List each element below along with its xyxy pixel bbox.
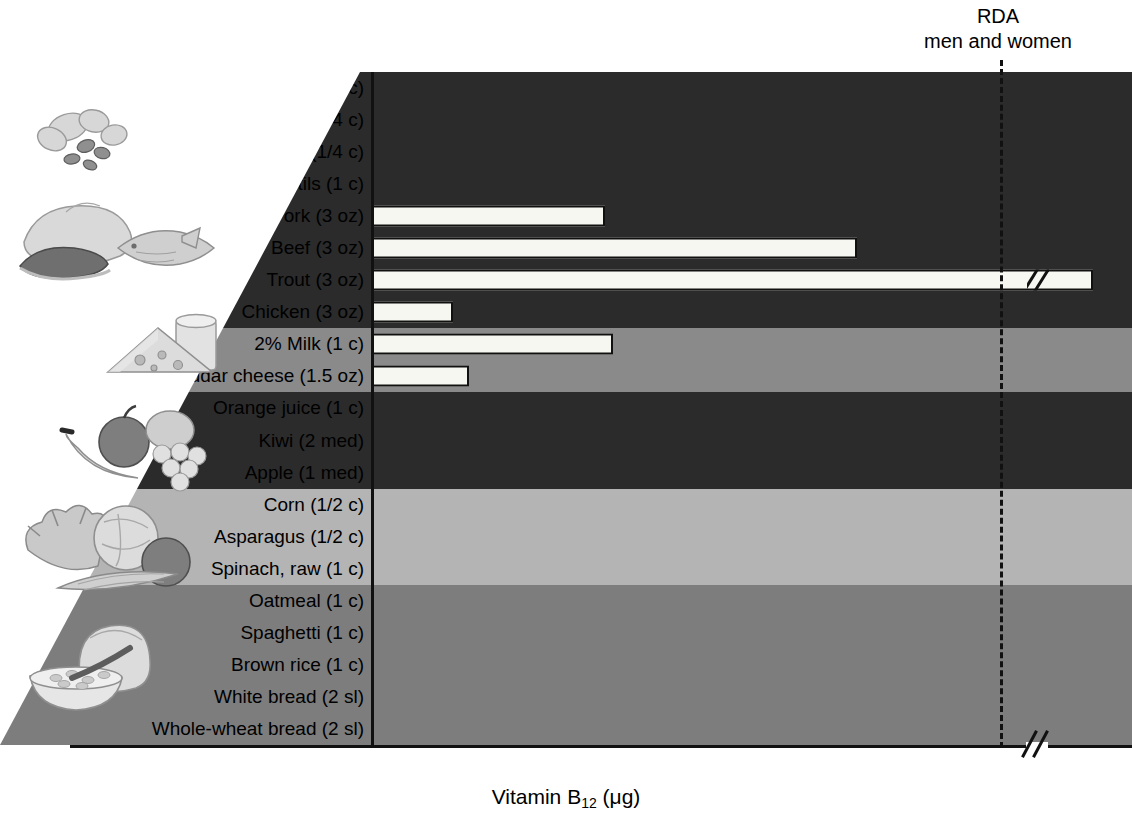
bar-row — [372, 521, 1132, 553]
category-row: Beef (3 oz) — [0, 232, 372, 264]
bar-row — [372, 72, 1132, 104]
category-label: Beef (3 oz) — [271, 237, 364, 259]
x-axis-title-subscript: 12 — [581, 795, 597, 811]
bar-cheddar-cheese — [372, 366, 469, 387]
category-label: Oatmeal (1 c) — [249, 590, 364, 612]
category-label: Kiwi (2 med) — [258, 430, 364, 452]
bar-row — [372, 425, 1132, 457]
bar-row — [372, 264, 1132, 296]
category-label: Orange juice (1 c) — [213, 397, 364, 419]
rda-annotation-line1: RDA — [878, 4, 1118, 29]
bar-row — [372, 457, 1132, 489]
rda-annotation-line2: men and women — [878, 29, 1118, 54]
category-row: Corn (1/2 c) — [0, 489, 372, 521]
category-label: Spaghetti (1 c) — [240, 622, 364, 644]
category-row: 2% Milk (1 c) — [0, 328, 372, 360]
category-label: Chicken (3 oz) — [242, 301, 365, 323]
category-label: Cheddar cheese (1.5 oz) — [155, 365, 364, 387]
category-row: Peanuts (1/4 c) — [0, 136, 372, 168]
category-row: Chicken (3 oz) — [0, 296, 372, 328]
category-row: Sunflower seeds (1/4 c) — [0, 72, 372, 104]
bar-row — [372, 681, 1132, 713]
x-axis-title-unit: (μg) — [597, 785, 641, 808]
category-label: Asparagus (1/2 c) — [214, 526, 364, 548]
bar-pork — [372, 206, 605, 227]
bar-chicken — [372, 302, 453, 323]
category-row: Pork (3 oz) — [0, 200, 372, 232]
x-axis-line — [70, 745, 1132, 748]
category-label: Sunflower seeds (1/4 c) — [164, 77, 364, 99]
axis-break-icon — [1022, 731, 1056, 757]
category-label: White bread (2 sl) — [214, 686, 364, 708]
bar-row — [372, 136, 1132, 168]
category-row: Trout (3 oz) — [0, 264, 372, 296]
category-label: 2% Milk (1 c) — [254, 333, 364, 355]
bar-trout — [372, 270, 1093, 291]
rda-reference-line — [1000, 60, 1003, 748]
category-label: Trout (3 oz) — [267, 269, 365, 291]
category-label: Spinach, raw (1 c) — [211, 558, 364, 580]
category-row: Cheddar cheese (1.5 oz) — [0, 360, 372, 392]
x-axis-title: Vitamin B12 (μg) — [0, 785, 1132, 811]
bar-row — [372, 232, 1132, 264]
bar-row — [372, 617, 1132, 649]
bar-row — [372, 489, 1132, 521]
category-label-column: Sunflower seeds (1/4 c)Walnuts (1/4 c)Pe… — [0, 72, 372, 745]
bar-break-icon — [1027, 270, 1049, 291]
category-label: Walnuts (1/4 c) — [237, 109, 364, 131]
category-label: Peanuts (1/4 c) — [235, 141, 364, 163]
category-row: Walnuts (1/4 c) — [0, 104, 372, 136]
bar-row — [372, 713, 1132, 745]
bar-row — [372, 553, 1132, 585]
bar-beef — [372, 238, 857, 259]
vitamin-b12-food-sources-chart: RDA men and women Sunflower seeds (1/4 c… — [0, 0, 1132, 822]
category-row: Lentils (1 c) — [0, 168, 372, 200]
category-label: Pork (3 oz) — [271, 205, 364, 227]
category-row: Brown rice (1 c) — [0, 649, 372, 681]
category-row: Apple (1 med) — [0, 457, 372, 489]
bar-row — [372, 360, 1132, 392]
category-label: Apple (1 med) — [245, 462, 364, 484]
bar-row — [372, 328, 1132, 360]
bar-row — [372, 392, 1132, 424]
bar-row — [372, 168, 1132, 200]
bar-row — [372, 585, 1132, 617]
category-row: Kiwi (2 med) — [0, 425, 372, 457]
category-row: Orange juice (1 c) — [0, 392, 372, 424]
category-row: Whole-wheat bread (2 sl) — [0, 713, 372, 745]
category-row: Spinach, raw (1 c) — [0, 553, 372, 585]
plot-area — [372, 72, 1132, 745]
bar-row — [372, 649, 1132, 681]
category-row: White bread (2 sl) — [0, 681, 372, 713]
category-row: Asparagus (1/2 c) — [0, 521, 372, 553]
rda-annotation: RDA men and women — [878, 4, 1118, 54]
category-label: Whole-wheat bread (2 sl) — [152, 718, 364, 740]
bar-row — [372, 104, 1132, 136]
category-row: Oatmeal (1 c) — [0, 585, 372, 617]
bar-row — [372, 200, 1132, 232]
category-label: Lentils (1 c) — [266, 173, 364, 195]
category-label: Corn (1/2 c) — [264, 494, 364, 516]
bar-2-milk — [372, 334, 613, 355]
x-axis-title-main: Vitamin B — [492, 785, 582, 808]
category-label: Brown rice (1 c) — [231, 654, 364, 676]
bar-row — [372, 296, 1132, 328]
y-axis-line — [371, 72, 374, 748]
category-row: Spaghetti (1 c) — [0, 617, 372, 649]
